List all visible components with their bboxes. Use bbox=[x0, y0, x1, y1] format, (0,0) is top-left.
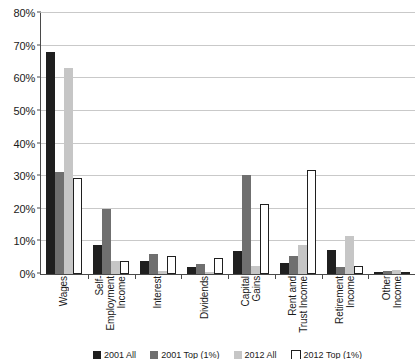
plot-area: 0%10%20%30%40%50%60%70%80% bbox=[40, 13, 415, 275]
y-axis-tick-label: 30% bbox=[14, 170, 41, 182]
x-axis-label: Retirement Income bbox=[334, 276, 356, 324]
bar bbox=[55, 172, 64, 274]
y-axis-tick-label: 0% bbox=[20, 268, 42, 280]
bar-group bbox=[135, 13, 182, 274]
y-axis-tick-label: 70% bbox=[14, 40, 41, 52]
y-axis-tick-label: 20% bbox=[14, 203, 41, 215]
bar bbox=[327, 250, 336, 274]
legend-item: 2012 All bbox=[234, 350, 277, 359]
x-axis-label-cell: Capital Gains bbox=[228, 276, 275, 342]
x-axis-label: Interest bbox=[152, 276, 163, 309]
y-axis-tick-label: 50% bbox=[14, 105, 41, 117]
x-axis-label: Rent and Trust Income bbox=[287, 276, 309, 333]
legend-item: 2001 All bbox=[93, 350, 136, 359]
x-axis-label-cell: Rent and Trust Income bbox=[274, 276, 321, 342]
bar bbox=[205, 272, 214, 274]
bar bbox=[392, 270, 401, 274]
bar bbox=[298, 245, 307, 274]
bar bbox=[187, 267, 196, 274]
x-axis-label: Wages bbox=[58, 276, 69, 306]
bar bbox=[140, 261, 149, 274]
bar bbox=[111, 261, 120, 274]
bar bbox=[383, 271, 392, 274]
bar bbox=[289, 256, 298, 274]
legend-label: 2012 All bbox=[245, 350, 277, 359]
legend-swatch bbox=[291, 350, 301, 359]
bar bbox=[260, 204, 269, 274]
legend-label: 2012 Top (1%) bbox=[304, 350, 362, 359]
bar bbox=[158, 271, 167, 274]
bar bbox=[102, 209, 111, 274]
legend-label: 2001 Top (1%) bbox=[161, 350, 219, 359]
bar bbox=[307, 170, 316, 274]
x-axis-labels: WagesSelf- Employment IncomeInterestDivi… bbox=[40, 276, 415, 342]
bar bbox=[214, 258, 223, 274]
bar bbox=[73, 178, 82, 274]
bar bbox=[280, 263, 289, 274]
legend-swatch bbox=[150, 351, 158, 359]
bar bbox=[196, 264, 205, 274]
bar-groups bbox=[41, 13, 415, 274]
x-axis-label-cell: Dividends bbox=[181, 276, 228, 342]
legend-swatch bbox=[234, 351, 242, 359]
x-axis-label: Other Income bbox=[381, 276, 403, 308]
bar bbox=[345, 236, 354, 274]
legend: 2001 All2001 Top (1%)2012 All2012 Top (1… bbox=[40, 350, 415, 359]
x-axis-label-cell: Interest bbox=[134, 276, 181, 342]
x-axis-label-cell: Self- Employment Income bbox=[87, 276, 134, 342]
y-axis-tick-label: 10% bbox=[14, 235, 41, 247]
bar-group bbox=[181, 13, 228, 274]
bar bbox=[120, 261, 129, 274]
legend-label: 2001 All bbox=[104, 350, 136, 359]
legend-item: 2012 Top (1%) bbox=[291, 350, 362, 359]
x-axis-label: Capital Gains bbox=[240, 276, 262, 306]
legend-swatch bbox=[93, 351, 101, 359]
y-axis-tick-label: 80% bbox=[14, 7, 41, 19]
x-axis-label-cell: Retirement Income bbox=[321, 276, 368, 342]
bar bbox=[354, 266, 363, 274]
x-axis-label: Self- Employment Income bbox=[94, 276, 127, 331]
bar bbox=[242, 175, 251, 274]
bar bbox=[46, 52, 55, 274]
bar bbox=[251, 266, 260, 274]
bar bbox=[336, 267, 345, 274]
x-axis-label-cell: Other Income bbox=[368, 276, 415, 342]
bar bbox=[233, 251, 242, 274]
bar-group bbox=[368, 13, 415, 274]
x-axis-label: Dividends bbox=[199, 276, 210, 319]
legend-item: 2001 Top (1%) bbox=[150, 350, 219, 359]
bar-group bbox=[275, 13, 322, 274]
x-axis-label-cell: Wages bbox=[40, 276, 87, 342]
bar bbox=[64, 68, 73, 274]
bar-group bbox=[41, 13, 88, 274]
bar-group bbox=[228, 13, 275, 274]
bar bbox=[167, 256, 176, 274]
bar-chart: 0%10%20%30%40%50%60%70%80% WagesSelf- Em… bbox=[0, 0, 420, 359]
bar-group bbox=[322, 13, 369, 274]
y-axis-tick-label: 40% bbox=[14, 138, 41, 150]
bar bbox=[374, 272, 383, 274]
bar-group bbox=[88, 13, 135, 274]
y-axis-tick-label: 60% bbox=[14, 72, 41, 84]
bar bbox=[149, 254, 158, 274]
bar bbox=[93, 245, 102, 274]
bar bbox=[401, 272, 410, 274]
